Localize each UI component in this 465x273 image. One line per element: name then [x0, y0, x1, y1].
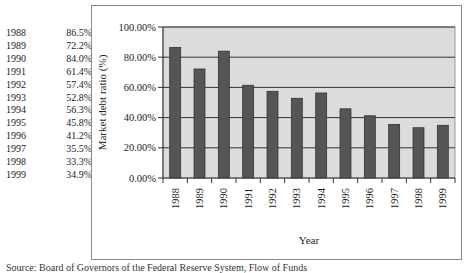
bar — [218, 51, 229, 178]
bar — [389, 124, 400, 178]
x-tick-label: 1992 — [267, 188, 278, 209]
x-tick-label: 1994 — [316, 187, 327, 209]
bar — [364, 116, 375, 178]
bar — [170, 47, 181, 178]
x-tick-label: 1995 — [340, 188, 351, 209]
source-caption: Source: Board of Governors of the Federa… — [6, 262, 307, 273]
y-tick-label: 80.00% — [124, 52, 157, 63]
plot-area — [163, 27, 455, 178]
x-tick-label: 1998 — [413, 188, 424, 209]
x-tick-label: 1997 — [389, 188, 400, 209]
y-axis-label: Market debt ratio (%) — [96, 54, 109, 150]
x-axis-label: Year — [299, 234, 320, 246]
x-tick-label: 1989 — [194, 188, 205, 209]
bar — [291, 98, 302, 178]
bar — [340, 109, 351, 178]
x-tick-label: 1993 — [291, 188, 302, 209]
x-tick-label: 1996 — [364, 188, 375, 209]
x-tick-label: 1988 — [170, 188, 181, 209]
y-tick-label: 40.00% — [124, 112, 157, 123]
bar — [194, 69, 205, 178]
x-tick-label: 1990 — [218, 188, 229, 209]
x-tick-label: 1991 — [243, 188, 254, 209]
bar — [437, 125, 448, 178]
y-tick-label: 0.00% — [129, 173, 156, 184]
bar — [413, 128, 424, 178]
y-tick-label: 60.00% — [124, 82, 157, 93]
bar — [267, 91, 278, 178]
y-tick-label: 20.00% — [124, 142, 157, 153]
x-tick-label: 1999 — [437, 188, 448, 209]
bar — [243, 85, 254, 178]
y-tick-label: 100.00% — [118, 22, 156, 33]
bar — [316, 93, 327, 178]
